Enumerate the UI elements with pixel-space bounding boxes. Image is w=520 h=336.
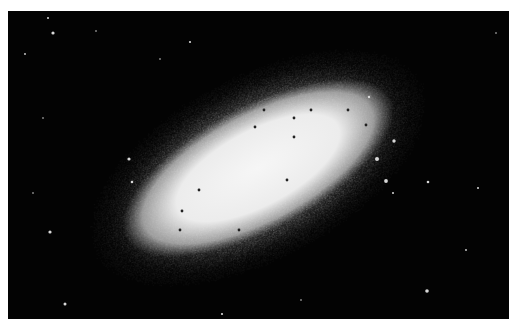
star <box>392 139 395 142</box>
star <box>300 299 302 301</box>
star <box>427 181 430 184</box>
star <box>32 192 34 194</box>
star <box>51 31 54 34</box>
star <box>495 32 497 34</box>
star <box>48 230 51 233</box>
star <box>131 181 134 184</box>
dark-speck <box>365 124 368 127</box>
galaxy-image <box>8 11 509 319</box>
dark-speck <box>198 189 201 192</box>
dark-speck <box>286 179 289 182</box>
star <box>392 192 394 194</box>
star <box>95 30 97 32</box>
star <box>47 17 49 19</box>
star <box>465 249 467 251</box>
star <box>64 303 67 306</box>
star <box>127 157 130 160</box>
dark-speck <box>263 109 266 112</box>
star <box>368 96 370 98</box>
dark-speck <box>347 109 350 112</box>
star <box>42 117 44 119</box>
dark-speck <box>293 117 296 120</box>
star <box>221 313 223 315</box>
dark-speck <box>293 136 296 139</box>
star <box>384 179 388 183</box>
dark-speck <box>181 210 184 213</box>
star <box>425 289 429 293</box>
star <box>189 41 191 43</box>
dark-speck <box>310 109 313 112</box>
dark-speck <box>238 229 241 232</box>
star <box>24 53 26 55</box>
dark-speck <box>179 229 182 232</box>
star <box>375 157 379 161</box>
dark-speck <box>254 126 257 129</box>
galaxy-photograph <box>8 11 509 319</box>
star <box>159 58 161 60</box>
star <box>477 187 479 189</box>
